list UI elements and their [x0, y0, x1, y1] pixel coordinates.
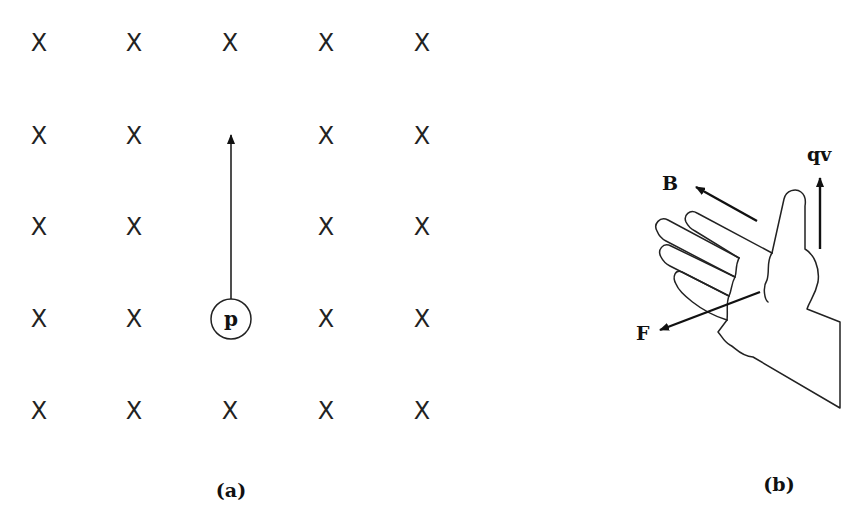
field-x-mark: X: [31, 397, 47, 425]
field-x-mark: X: [126, 397, 142, 425]
field-x-mark: X: [414, 122, 430, 150]
field-x-mark: X: [126, 213, 142, 241]
field-x-mark: X: [318, 122, 334, 150]
field-x-mark: X: [31, 122, 47, 150]
field-x-mark: X: [31, 29, 47, 57]
panel-a: XXXXXXXXXXXXXXXXXXXXXX p (a): [31, 29, 430, 501]
proton-particle: p: [211, 299, 251, 339]
qv-vector-label: qv: [807, 143, 832, 165]
field-x-mark: X: [414, 213, 430, 241]
field-x-mark: X: [222, 29, 238, 57]
field-x-mark: X: [318, 213, 334, 241]
field-x-mark: X: [126, 305, 142, 333]
field-x-mark: X: [31, 305, 47, 333]
proton-label: p: [224, 307, 238, 331]
field-x-mark: X: [318, 305, 334, 333]
field-x-mark: X: [318, 29, 334, 57]
field-x-mark: X: [222, 397, 238, 425]
F-vector-label: F: [636, 322, 650, 344]
B-vector-arrow: [696, 187, 757, 221]
field-x-mark: X: [414, 305, 430, 333]
field-x-mark: X: [31, 213, 47, 241]
right-hand-icon: [656, 190, 840, 408]
figure-canvas: XXXXXXXXXXXXXXXXXXXXXX p (a) B qv: [0, 0, 852, 526]
B-vector-label: B: [662, 172, 678, 194]
field-x-mark: X: [414, 29, 430, 57]
field-x-mark: X: [126, 29, 142, 57]
caption-a: (a): [216, 479, 246, 501]
field-x-mark: X: [414, 397, 430, 425]
caption-b: (b): [763, 473, 794, 495]
field-x-mark: X: [318, 397, 334, 425]
panel-b: B qv F (b): [636, 143, 840, 495]
field-x-mark: X: [126, 122, 142, 150]
F-vector-arrow: [660, 292, 760, 330]
